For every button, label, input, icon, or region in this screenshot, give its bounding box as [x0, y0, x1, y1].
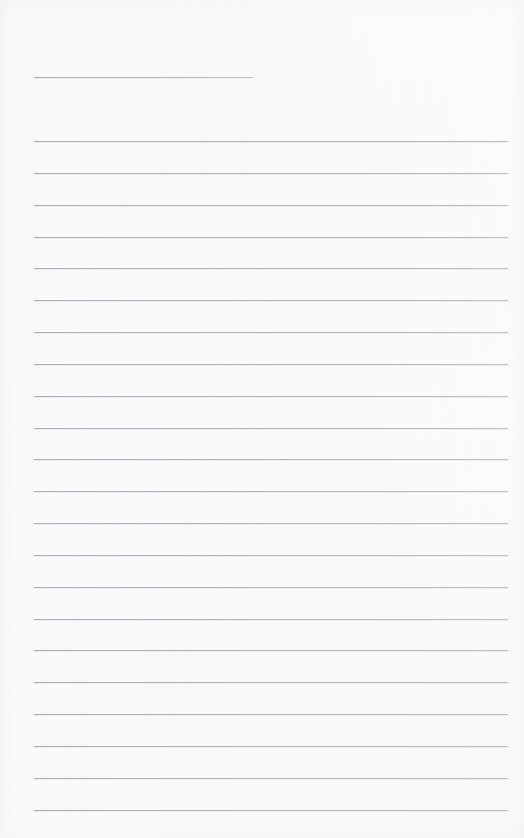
body-rule-4	[34, 237, 508, 238]
body-rule-15	[34, 587, 508, 588]
body-rule-22	[34, 810, 508, 811]
body-rule-21	[34, 778, 508, 779]
body-rule-8	[34, 364, 508, 365]
body-rule-2	[34, 173, 508, 174]
paper-grain-texture	[0, 0, 524, 838]
body-rule-12	[34, 491, 508, 492]
body-rule-16	[34, 619, 508, 620]
body-rule-7	[34, 332, 508, 333]
lined-paper-page	[0, 0, 524, 838]
body-rule-11	[34, 459, 508, 460]
body-rule-17	[34, 650, 508, 651]
body-rule-6	[34, 300, 508, 301]
body-rule-14	[34, 555, 508, 556]
body-rule-20	[34, 746, 508, 747]
heading-rule	[34, 77, 253, 78]
body-rule-19	[34, 714, 508, 715]
body-rule-9	[34, 396, 508, 397]
body-rule-18	[34, 682, 508, 683]
body-rule-13	[34, 523, 508, 524]
body-rule-1	[34, 141, 508, 142]
body-rule-10	[34, 428, 508, 429]
body-rule-3	[34, 205, 508, 206]
body-rule-5	[34, 268, 508, 269]
scan-edge-shading	[0, 0, 524, 838]
